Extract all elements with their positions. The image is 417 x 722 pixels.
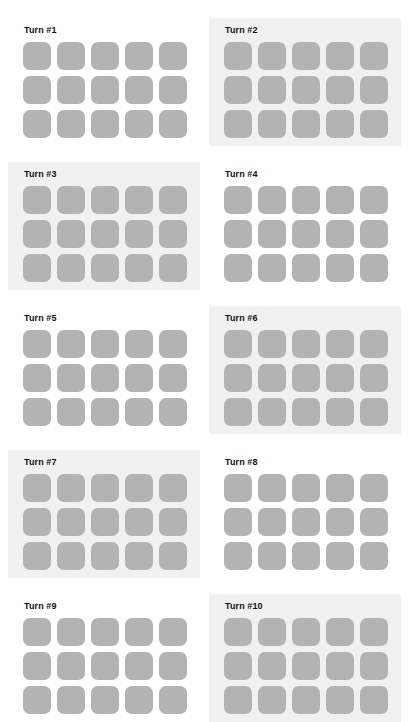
tile[interactable] [23,364,51,392]
tile[interactable] [326,508,354,536]
tile[interactable] [125,474,153,502]
tile[interactable] [360,42,388,70]
tile[interactable] [23,186,51,214]
tile[interactable] [57,76,85,104]
tile[interactable] [224,364,252,392]
tile[interactable] [125,364,153,392]
tile[interactable] [57,364,85,392]
tile[interactable] [125,220,153,248]
tile[interactable] [23,330,51,358]
tile[interactable] [23,686,51,714]
tile[interactable] [23,398,51,426]
tile[interactable] [258,76,286,104]
tile[interactable] [258,542,286,570]
tile[interactable] [91,542,119,570]
tile[interactable] [258,508,286,536]
tile[interactable] [91,364,119,392]
tile[interactable] [57,186,85,214]
tile[interactable] [258,220,286,248]
tile[interactable] [360,474,388,502]
tile[interactable] [258,398,286,426]
tile[interactable] [57,398,85,426]
tile[interactable] [159,110,187,138]
tile[interactable] [23,542,51,570]
tile[interactable] [326,398,354,426]
tile[interactable] [292,254,320,282]
tile[interactable] [125,330,153,358]
tile[interactable] [224,398,252,426]
tile[interactable] [159,364,187,392]
tile[interactable] [258,686,286,714]
tile[interactable] [23,220,51,248]
tile[interactable] [57,652,85,680]
tile[interactable] [91,254,119,282]
tile[interactable] [159,330,187,358]
tile[interactable] [23,618,51,646]
tile[interactable] [224,330,252,358]
tile[interactable] [159,42,187,70]
tile[interactable] [292,364,320,392]
tile[interactable] [292,474,320,502]
tile[interactable] [159,76,187,104]
tile[interactable] [125,76,153,104]
tile[interactable] [91,508,119,536]
tile[interactable] [360,542,388,570]
tile[interactable] [23,254,51,282]
tile[interactable] [159,652,187,680]
tile[interactable] [326,542,354,570]
tile[interactable] [57,686,85,714]
tile[interactable] [224,254,252,282]
tile[interactable] [224,618,252,646]
tile[interactable] [224,508,252,536]
tile[interactable] [125,508,153,536]
tile[interactable] [360,330,388,358]
tile[interactable] [360,364,388,392]
tile[interactable] [125,42,153,70]
tile[interactable] [159,508,187,536]
tile[interactable] [224,474,252,502]
tile[interactable] [292,542,320,570]
tile[interactable] [326,686,354,714]
tile[interactable] [125,254,153,282]
tile[interactable] [292,508,320,536]
tile[interactable] [224,652,252,680]
tile[interactable] [23,474,51,502]
tile[interactable] [326,220,354,248]
tile[interactable] [91,398,119,426]
tile[interactable] [360,652,388,680]
tile[interactable] [91,110,119,138]
tile[interactable] [292,76,320,104]
tile[interactable] [23,508,51,536]
tile[interactable] [360,110,388,138]
tile[interactable] [258,474,286,502]
tile[interactable] [326,618,354,646]
tile[interactable] [125,186,153,214]
tile[interactable] [292,186,320,214]
tile[interactable] [224,542,252,570]
tile[interactable] [224,220,252,248]
tile[interactable] [224,76,252,104]
tile[interactable] [91,42,119,70]
tile[interactable] [159,686,187,714]
tile[interactable] [292,42,320,70]
tile[interactable] [326,76,354,104]
tile[interactable] [292,618,320,646]
tile[interactable] [360,186,388,214]
tile[interactable] [57,42,85,70]
tile[interactable] [258,330,286,358]
tile[interactable] [292,220,320,248]
tile[interactable] [159,186,187,214]
tile[interactable] [57,474,85,502]
tile[interactable] [258,618,286,646]
tile[interactable] [57,110,85,138]
tile[interactable] [57,618,85,646]
tile[interactable] [326,474,354,502]
tile[interactable] [326,330,354,358]
tile[interactable] [224,42,252,70]
tile[interactable] [326,110,354,138]
tile[interactable] [326,254,354,282]
tile[interactable] [57,542,85,570]
tile[interactable] [258,110,286,138]
tile[interactable] [91,220,119,248]
tile[interactable] [258,254,286,282]
